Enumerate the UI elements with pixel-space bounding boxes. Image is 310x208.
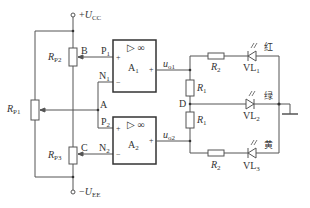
r2-bottom-resistor-icon <box>208 150 224 156</box>
p2-label: P2 <box>101 117 110 129</box>
a2-out-sign: + <box>149 137 154 145</box>
a1-label: A1 <box>128 63 139 75</box>
n2-label: N2 <box>99 143 110 155</box>
a1-plus-sign: + <box>116 54 121 62</box>
a1-minus-sign: − <box>116 79 121 87</box>
vl1-color-label: 红 <box>264 43 273 52</box>
r2-top-label: R2 <box>211 62 221 74</box>
r1-top-label: R1 <box>197 83 207 95</box>
led-vl1-icon <box>248 51 256 61</box>
vl2-color-label: 绿 <box>264 92 273 101</box>
rp1-label: RP1 <box>7 104 21 116</box>
p1-label: P1 <box>101 46 110 58</box>
r2-bottom-label: R2 <box>211 160 221 172</box>
led-vl2-icon <box>246 99 254 109</box>
node-b-label: B <box>81 46 88 56</box>
vl3-label: VL3 <box>243 161 260 173</box>
a1-out-sign: + <box>149 66 154 74</box>
led-vl3-icon <box>248 148 256 158</box>
r1-bottom-label: R1 <box>197 115 207 127</box>
vee-label: −UEE <box>79 187 100 199</box>
vcc-label: +UCC <box>79 10 101 22</box>
rp3-label: RP3 <box>48 150 62 162</box>
node-a-label: A <box>100 100 107 110</box>
vl2-label: VL2 <box>243 111 260 123</box>
rp3-resistor-icon <box>69 147 77 164</box>
a2-label: A2 <box>128 140 139 152</box>
rp2-label: RP2 <box>48 52 62 64</box>
vl3-color-label: 黄 <box>264 141 273 150</box>
r1-bottom-resistor-icon <box>186 112 194 128</box>
uo2-label: uo2 <box>163 130 175 142</box>
a2-header: ▷ ∞ <box>127 120 145 130</box>
n1-label: N1 <box>99 71 110 83</box>
node-c-label: C <box>81 143 88 153</box>
a1-header: ▷ ∞ <box>127 43 145 53</box>
rp1-resistor-icon <box>31 100 39 120</box>
a2-plus-sign: + <box>116 125 121 133</box>
circuit-diagram: +UCC −UEE RP2 RP1 RP3 B C A D P1 N1 P2 N… <box>0 0 310 208</box>
node-d-label: D <box>179 99 186 109</box>
r1-top-resistor-icon <box>186 80 194 96</box>
vcc-terminal-icon <box>71 13 75 17</box>
rp2-resistor-icon <box>69 48 77 66</box>
uo1-label: uo1 <box>163 59 175 71</box>
schematic-wires <box>0 0 310 208</box>
r2-top-resistor-icon <box>208 53 224 59</box>
vee-terminal-icon <box>71 190 75 194</box>
a2-minus-sign: − <box>116 151 121 159</box>
vl1-label: VL1 <box>243 63 260 75</box>
